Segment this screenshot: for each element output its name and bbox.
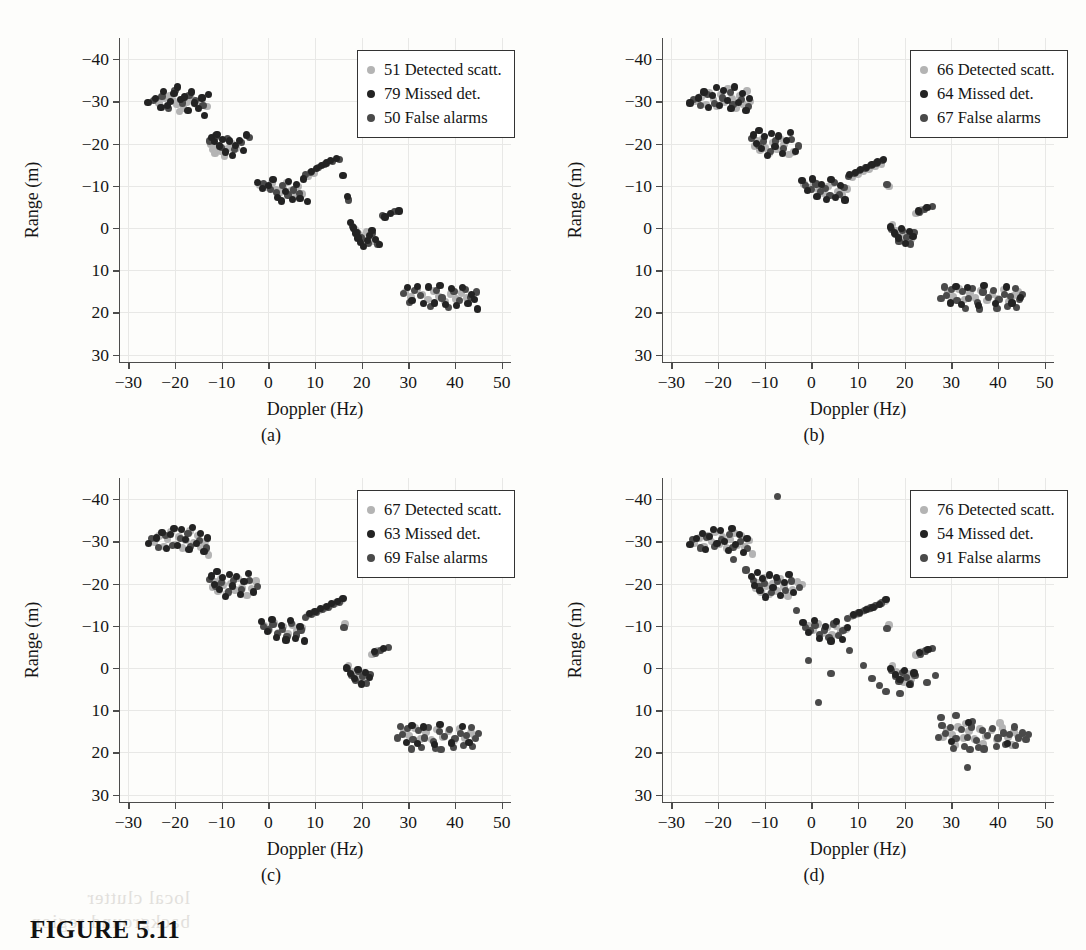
y-axis-tick-label: 30	[635, 344, 653, 365]
y-axis-tick	[656, 626, 662, 627]
x-axis-tick	[408, 803, 409, 809]
x-axis-tick	[718, 803, 719, 809]
y-axis-tick-label: −30	[625, 531, 652, 552]
y-axis-label: Range (m)	[565, 602, 586, 678]
y-axis-tick	[113, 626, 119, 627]
y-axis-tick	[113, 186, 119, 187]
y-axis-tick-label: 30	[635, 784, 653, 805]
x-axis-label: Doppler (Hz)	[810, 399, 906, 420]
x-axis-tick	[951, 803, 952, 809]
legend-marker-detected-icon	[367, 66, 375, 74]
y-axis-label: Range (m)	[22, 602, 43, 678]
y-axis-tick-label: −10	[82, 175, 109, 196]
y-axis-tick-label: 20	[635, 302, 653, 323]
y-axis-tick	[113, 668, 119, 669]
bleed-line-1: local clutter	[30, 886, 190, 910]
x-axis-tick	[1045, 363, 1046, 369]
x-axis-tick-label: 0	[807, 372, 816, 393]
x-axis-tick-label: 30	[400, 812, 418, 833]
x-axis-tick	[905, 803, 906, 809]
y-axis-tick-label: −10	[625, 615, 652, 636]
legend-label: 91 False alarms	[937, 548, 1041, 568]
y-axis-tick	[656, 228, 662, 229]
x-axis-label: Doppler (Hz)	[810, 839, 906, 860]
y-axis-tick-label: 30	[92, 784, 110, 805]
y-axis-tick	[113, 312, 119, 313]
scatter-panel-d: −40−30−20−100102030−30−20−10010203040507…	[543, 440, 1086, 880]
y-axis-tick	[113, 101, 119, 102]
y-axis-tick	[656, 144, 662, 145]
y-axis-tick	[656, 710, 662, 711]
x-axis-tick	[175, 803, 176, 809]
legend-label: 50 False alarms	[384, 108, 488, 128]
y-axis-tick-label: −10	[625, 175, 652, 196]
legend-marker-detected-icon	[920, 66, 928, 74]
plot-area-d: −40−30−20−100102030−30−20−10010203040507…	[662, 478, 1054, 803]
y-axis-tick	[656, 312, 662, 313]
plot-area-b: −40−30−20−100102030−30−20−10010203040506…	[662, 38, 1054, 363]
y-axis-tick	[113, 710, 119, 711]
y-axis-tick	[656, 270, 662, 271]
x-axis-tick-label: −10	[208, 812, 235, 833]
legend-label: 67 Detected scatt.	[384, 500, 502, 520]
y-axis-tick-label: 10	[635, 700, 653, 721]
scatter-panel-a: −40−30−20−100102030−30−20−10010203040505…	[0, 0, 543, 440]
legend-marker-missed-icon	[367, 530, 375, 538]
y-axis-tick	[113, 752, 119, 753]
x-axis-tick-label: −20	[704, 372, 731, 393]
x-axis-tick-label: −20	[161, 812, 188, 833]
x-axis-tick-label: 10	[306, 372, 324, 393]
legend-marker-detected-icon	[367, 506, 375, 514]
x-axis-tick	[1045, 803, 1046, 809]
legend-item-detected: 67 Detected scatt.	[367, 498, 502, 522]
y-axis-tick-label: −40	[82, 489, 109, 510]
x-axis-tick-label: 40	[989, 812, 1007, 833]
x-axis-tick-label: −30	[115, 812, 142, 833]
legend-item-false-alarm: 91 False alarms	[920, 546, 1055, 570]
x-axis-label: Doppler (Hz)	[267, 839, 363, 860]
x-axis-tick	[362, 803, 363, 809]
x-axis-tick-label: 20	[353, 372, 371, 393]
x-axis-tick-label: −10	[208, 372, 235, 393]
plot-area-a: −40−30−20−100102030−30−20−10010203040505…	[119, 38, 511, 363]
legend-label: 51 Detected scatt.	[384, 60, 502, 80]
legend-c: 67 Detected scatt.63 Missed det.69 False…	[357, 490, 515, 578]
y-axis-tick-label: 10	[92, 260, 110, 281]
legend-label: 63 Missed det.	[384, 524, 481, 544]
x-axis-tick-label: 10	[849, 812, 867, 833]
x-axis-tick	[408, 363, 409, 369]
y-axis-tick	[113, 228, 119, 229]
x-axis-tick	[128, 363, 129, 369]
y-axis-tick-label: −30	[82, 91, 109, 112]
legend-item-detected: 51 Detected scatt.	[367, 58, 502, 82]
x-axis-tick-label: 50	[1036, 372, 1054, 393]
x-axis-tick-label: 40	[446, 812, 464, 833]
legend-marker-false-alarm-icon	[367, 114, 375, 122]
y-axis-tick	[113, 499, 119, 500]
x-axis-tick-label: 10	[849, 372, 867, 393]
x-axis-tick	[128, 803, 129, 809]
x-axis-tick-label: 0	[264, 372, 273, 393]
x-axis-tick-label: 50	[493, 372, 511, 393]
x-axis-tick	[502, 363, 503, 369]
x-axis-tick	[455, 363, 456, 369]
x-axis-tick	[362, 363, 363, 369]
legend-marker-false-alarm-icon	[920, 554, 928, 562]
x-axis-tick-label: 40	[446, 372, 464, 393]
y-axis-tick-label: 10	[92, 700, 110, 721]
legend-marker-missed-icon	[367, 90, 375, 98]
y-axis-tick-label: −40	[625, 49, 652, 70]
figure-caption-label: FIGURE 5.11	[30, 916, 180, 944]
x-axis-tick-label: 30	[400, 372, 418, 393]
y-axis-tick	[113, 59, 119, 60]
x-axis-tick-label: 40	[989, 372, 1007, 393]
legend-label: 79 Missed det.	[384, 84, 481, 104]
y-axis-tick	[656, 668, 662, 669]
y-axis-tick-label: 20	[92, 742, 110, 763]
x-axis-tick	[268, 363, 269, 369]
x-axis-tick-label: −30	[658, 372, 685, 393]
x-axis-tick	[222, 363, 223, 369]
x-axis-tick-label: 0	[807, 812, 816, 833]
legend-item-missed: 54 Missed det.	[920, 522, 1055, 546]
x-axis-tick-label: 50	[1036, 812, 1054, 833]
